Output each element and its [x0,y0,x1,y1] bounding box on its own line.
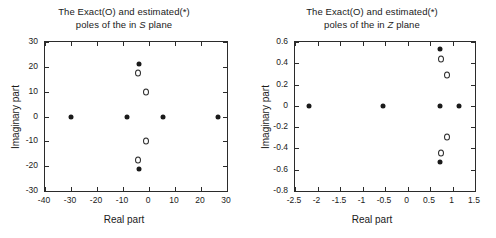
y-tick-mark [295,127,299,128]
x-tick-label: -2 [313,195,321,205]
estimated-pole-marker [136,167,141,172]
x-tick-mark [475,187,476,191]
y-tick-mark [223,166,227,167]
x-tick-mark [363,187,364,191]
estimated-pole-marker [437,160,442,165]
y-tick-mark [471,42,475,43]
x-tick-mark [340,42,341,46]
estimated-pole-marker [380,103,385,108]
x-tick-mark [97,187,98,191]
exact-pole-marker [143,138,149,145]
y-tick-label: 0.6 [248,36,288,46]
x-axis-title-z-plane: Real part [248,214,496,225]
x-tick-mark [71,42,72,46]
title-line-1: The Exact(O) and estimated(*) [306,6,438,17]
x-tick-label: -0.5 [377,195,392,205]
title-line-2-pre: poles of the in [76,19,139,30]
title-line-2-pre: poles of the in [324,19,387,30]
estimated-pole-marker [161,114,166,119]
figure-root: The Exact(O) and estimated(*) poles of t… [0,0,496,238]
y-tick-mark [223,191,227,192]
estimated-pole-marker [437,103,442,108]
y-tick-mark [295,170,299,171]
x-tick-label: -1.5 [332,195,347,205]
y-tick-mark [45,166,49,167]
x-tick-mark [340,187,341,191]
x-tick-mark [227,42,228,46]
x-tick-mark [385,187,386,191]
panel-z-plane: The Exact(O) and estimated(*) poles of t… [248,0,496,238]
estimated-pole-marker [124,114,129,119]
y-tick-mark [471,106,475,107]
x-tick-label: 10 [169,195,178,205]
y-tick-mark [295,85,299,86]
x-tick-label: -20 [90,195,102,205]
estimated-pole-marker [437,47,442,52]
y-axis-title-s-plane: Imaginary part [10,85,21,149]
x-tick-label: 1 [449,195,454,205]
x-tick-mark [201,187,202,191]
x-tick-label: 20 [195,195,204,205]
y-tick-mark [45,117,49,118]
y-tick-mark [295,63,299,64]
estimated-pole-marker [457,103,462,108]
chart-title-z-plane: The Exact(O) and estimated(*) poles of t… [248,6,496,31]
y-tick-mark [223,67,227,68]
y-tick-mark [295,191,299,192]
x-tick-mark [227,187,228,191]
exact-pole-marker [135,70,141,77]
x-tick-mark [430,42,431,46]
y-tick-label: -20 [0,160,38,170]
y-tick-mark [471,85,475,86]
y-tick-mark [223,117,227,118]
x-tick-label: 1.5 [468,195,480,205]
x-tick-mark [175,187,176,191]
x-tick-mark [430,187,431,191]
x-tick-label: 0.5 [423,195,435,205]
estimated-pole-marker [215,114,220,119]
x-tick-mark [385,42,386,46]
x-tick-label: -2.5 [287,195,302,205]
x-tick-mark [175,42,176,46]
plot-area-z-plane [294,41,476,192]
x-tick-mark [149,187,150,191]
y-tick-mark [471,148,475,149]
y-tick-mark [223,141,227,142]
x-tick-label: 0 [404,195,409,205]
x-tick-mark [318,42,319,46]
x-tick-label: -1 [358,195,366,205]
estimated-pole-marker [306,103,311,108]
y-tick-mark [471,170,475,171]
y-tick-mark [295,106,299,107]
title-line-1: The Exact(O) and estimated(*) [58,6,190,17]
y-tick-mark [45,141,49,142]
exact-pole-marker [444,71,450,78]
estimated-pole-marker [136,61,141,66]
chart-title-s-plane: The Exact(O) and estimated(*) poles of t… [0,6,248,31]
y-tick-mark [45,92,49,93]
x-tick-mark [318,187,319,191]
y-tick-mark [45,191,49,192]
y-tick-mark [45,67,49,68]
y-tick-label: -0.8 [248,185,288,195]
x-axis-title-s-plane: Real part [0,214,248,225]
y-tick-mark [45,42,49,43]
x-tick-mark [201,42,202,46]
y-tick-mark [295,42,299,43]
panel-s-plane: The Exact(O) and estimated(*) poles of t… [0,0,248,238]
y-tick-mark [223,42,227,43]
estimated-pole-marker [69,114,74,119]
exact-pole-marker [444,133,450,140]
x-tick-label: -40 [38,195,50,205]
y-tick-mark [471,191,475,192]
x-tick-mark [71,187,72,191]
x-tick-mark [408,42,409,46]
y-tick-mark [471,127,475,128]
exact-pole-marker [438,56,444,63]
exact-pole-marker [135,156,141,163]
x-tick-mark [149,42,150,46]
x-tick-label: -10 [116,195,128,205]
x-tick-mark [123,187,124,191]
title-line-2-post: plane [146,19,172,30]
x-tick-label: -30 [64,195,76,205]
